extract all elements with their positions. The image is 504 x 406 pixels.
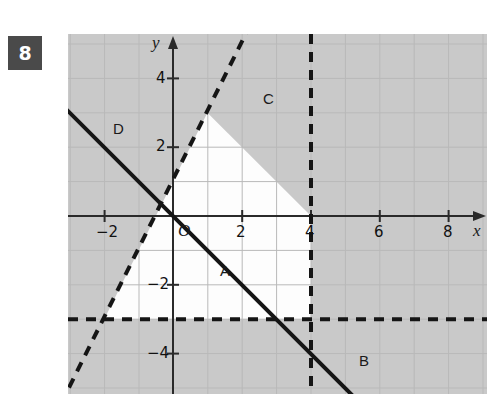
region-label-d: D [113, 121, 124, 136]
x-axis-label: x [473, 222, 481, 239]
y-tick-label-4: 4 [156, 71, 166, 86]
coordinate-plane-svg [68, 34, 487, 394]
x-tick-label-8: 8 [443, 225, 453, 240]
x-tick-label-4: 4 [305, 225, 315, 240]
y-axis-label: y [152, 34, 160, 51]
origin-label: O [178, 222, 190, 239]
y-tick-label-minus-2: −2 [147, 277, 169, 292]
y-tick-label-2: 2 [156, 139, 166, 154]
region-label-b: B [359, 353, 369, 368]
x-tick-label-2: 2 [236, 225, 246, 240]
x-tick-label-6: 6 [374, 225, 384, 240]
region-label-a: A [220, 263, 230, 278]
y-tick-label-minus-4: −4 [147, 346, 169, 361]
question-number-badge: 8 [8, 36, 42, 70]
graph-plot-area: y 4 2 −2 −4 −2 O 2 4 6 8 x A B C D [68, 34, 487, 394]
question-number-text: 8 [18, 42, 31, 64]
region-label-c: C [263, 91, 274, 106]
figure-container: 8 [0, 0, 504, 406]
x-tick-label-minus-2: −2 [96, 225, 118, 240]
